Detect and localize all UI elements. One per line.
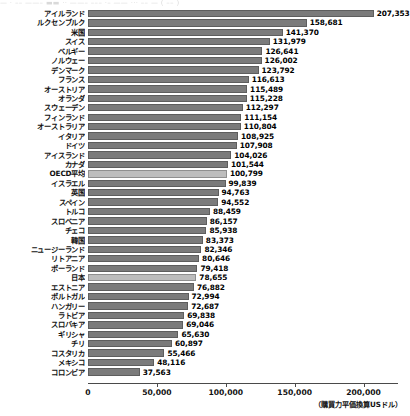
bar-row: アイルランド207,353 xyxy=(0,9,406,18)
bar xyxy=(88,19,307,26)
value-label: 48,116 xyxy=(157,358,185,367)
bar xyxy=(88,368,140,375)
category-label: ルクセンブルク xyxy=(0,18,85,27)
bar-row: エストニア76,882 xyxy=(0,283,406,292)
value-label: 99,839 xyxy=(229,179,257,188)
bar xyxy=(88,66,259,73)
bar-row: ニュージーランド82,346 xyxy=(0,245,406,254)
value-label: 76,882 xyxy=(197,283,225,292)
bar-track: 115,489 xyxy=(88,85,404,94)
category-label: メキシコ xyxy=(0,358,85,367)
value-label: 69,046 xyxy=(186,320,214,329)
bar-track: 69,838 xyxy=(88,311,404,320)
x-axis-tick-label: 100,000 xyxy=(208,388,243,397)
bar-highlighted xyxy=(88,274,196,281)
bar-track: 37,563 xyxy=(88,368,404,377)
bar-row: ノルウェー126,002 xyxy=(0,56,406,65)
bar-row: スロベニア86,157 xyxy=(0,217,406,226)
value-label: 72,687 xyxy=(191,302,219,311)
bar-track: 78,655 xyxy=(88,273,404,282)
cut-off-header-strip: — · –– ——– ▬▬ ·· ——– ––– ·– —— ··· –– — … xyxy=(0,0,406,8)
bar xyxy=(88,340,172,347)
bar-row: オーストリア115,489 xyxy=(0,85,406,94)
value-label: 104,026 xyxy=(234,151,267,160)
bar-row: ドイツ107,908 xyxy=(0,141,406,150)
bar-row: 韓国83,373 xyxy=(0,236,406,245)
bar xyxy=(88,293,189,300)
value-label: 100,799 xyxy=(230,169,263,178)
value-label: 94,763 xyxy=(222,188,250,197)
bar xyxy=(88,95,247,102)
bar-track: 110,804 xyxy=(88,122,404,131)
bar-track: 115,228 xyxy=(88,94,404,103)
x-axis-tick-label: 150,000 xyxy=(277,388,312,397)
bar-track: 83,373 xyxy=(88,236,404,245)
bar-row: OECD平均100,799 xyxy=(0,169,406,178)
value-label: 60,897 xyxy=(175,339,203,348)
category-label: ポーランド xyxy=(0,264,85,273)
value-label: 108,925 xyxy=(241,132,274,141)
bar-row: スイス131,979 xyxy=(0,37,406,46)
bar-track: 126,641 xyxy=(88,47,404,56)
category-label: リトアニア xyxy=(0,254,85,263)
category-label: OECD平均 xyxy=(0,169,85,178)
bar-track: 104,026 xyxy=(88,151,404,160)
bar xyxy=(88,76,249,83)
bar xyxy=(88,123,241,130)
bar xyxy=(88,180,226,187)
value-label: 72,994 xyxy=(192,292,220,301)
bar-row: ギリシャ65,630 xyxy=(0,330,406,339)
category-label: 日本 xyxy=(0,273,85,282)
category-label: オーストラリア xyxy=(0,122,85,131)
bar-row: ベルギー126,641 xyxy=(0,47,406,56)
value-label: 101,544 xyxy=(231,160,264,169)
bar-row: スペイン94,552 xyxy=(0,198,406,207)
value-label: 111,154 xyxy=(244,113,277,122)
value-label: 85,938 xyxy=(209,226,237,235)
category-label: チリ xyxy=(0,339,85,348)
bar-row: フィンランド111,154 xyxy=(0,113,406,122)
category-label: スロバキア xyxy=(0,320,85,329)
value-label: 65,630 xyxy=(181,330,209,339)
bar-track: 55,466 xyxy=(88,349,404,358)
plot-area: アイルランド207,353ルクセンブルク158,681米国141,370スイス1… xyxy=(0,9,406,383)
bar xyxy=(88,189,219,196)
category-label: ハンガリー xyxy=(0,302,85,311)
bar-track: 65,630 xyxy=(88,330,404,339)
cut-off-header-text: — · –– ——– ▬▬ ·· ——– ––– ·– —— ··· –– — … xyxy=(0,0,406,7)
bar-row: スロバキア69,046 xyxy=(0,320,406,329)
bar-track: 60,897 xyxy=(88,339,404,348)
value-label: 55,466 xyxy=(167,349,195,358)
bar xyxy=(88,85,247,92)
bar xyxy=(88,255,199,262)
bar xyxy=(88,132,238,139)
bar xyxy=(88,246,201,253)
bar-row: ポーランド79,418 xyxy=(0,264,406,273)
value-label: 37,563 xyxy=(143,368,171,377)
value-label: 112,297 xyxy=(246,103,279,112)
category-label: エストニア xyxy=(0,283,85,292)
bar-row: リトアニア80,646 xyxy=(0,254,406,263)
bar-highlighted xyxy=(88,170,227,177)
x-axis: 050,000100,000150,000200,000 （購買力平価換算USド… xyxy=(88,383,398,416)
bar-track: 112,297 xyxy=(88,103,404,112)
bar xyxy=(88,151,231,158)
bar xyxy=(88,104,243,111)
category-label: 英国 xyxy=(0,188,85,197)
category-label: コスタリカ xyxy=(0,349,85,358)
bar-row: アイスランド104,026 xyxy=(0,151,406,160)
bar xyxy=(88,38,270,45)
value-label: 83,373 xyxy=(206,236,234,245)
category-label: スウェーデン xyxy=(0,103,85,112)
category-label: ポルトガル xyxy=(0,292,85,301)
category-label: スペイン xyxy=(0,198,85,207)
x-axis-tick xyxy=(226,383,227,387)
bar xyxy=(88,29,283,36)
x-axis-tick-label: 50,000 xyxy=(142,388,171,397)
bar-track: 85,938 xyxy=(88,226,404,235)
bar-row: ラトビア69,838 xyxy=(0,311,406,320)
category-label: ギリシャ xyxy=(0,330,85,339)
value-label: 141,370 xyxy=(286,28,319,37)
bar-row: トルコ88,459 xyxy=(0,207,406,216)
